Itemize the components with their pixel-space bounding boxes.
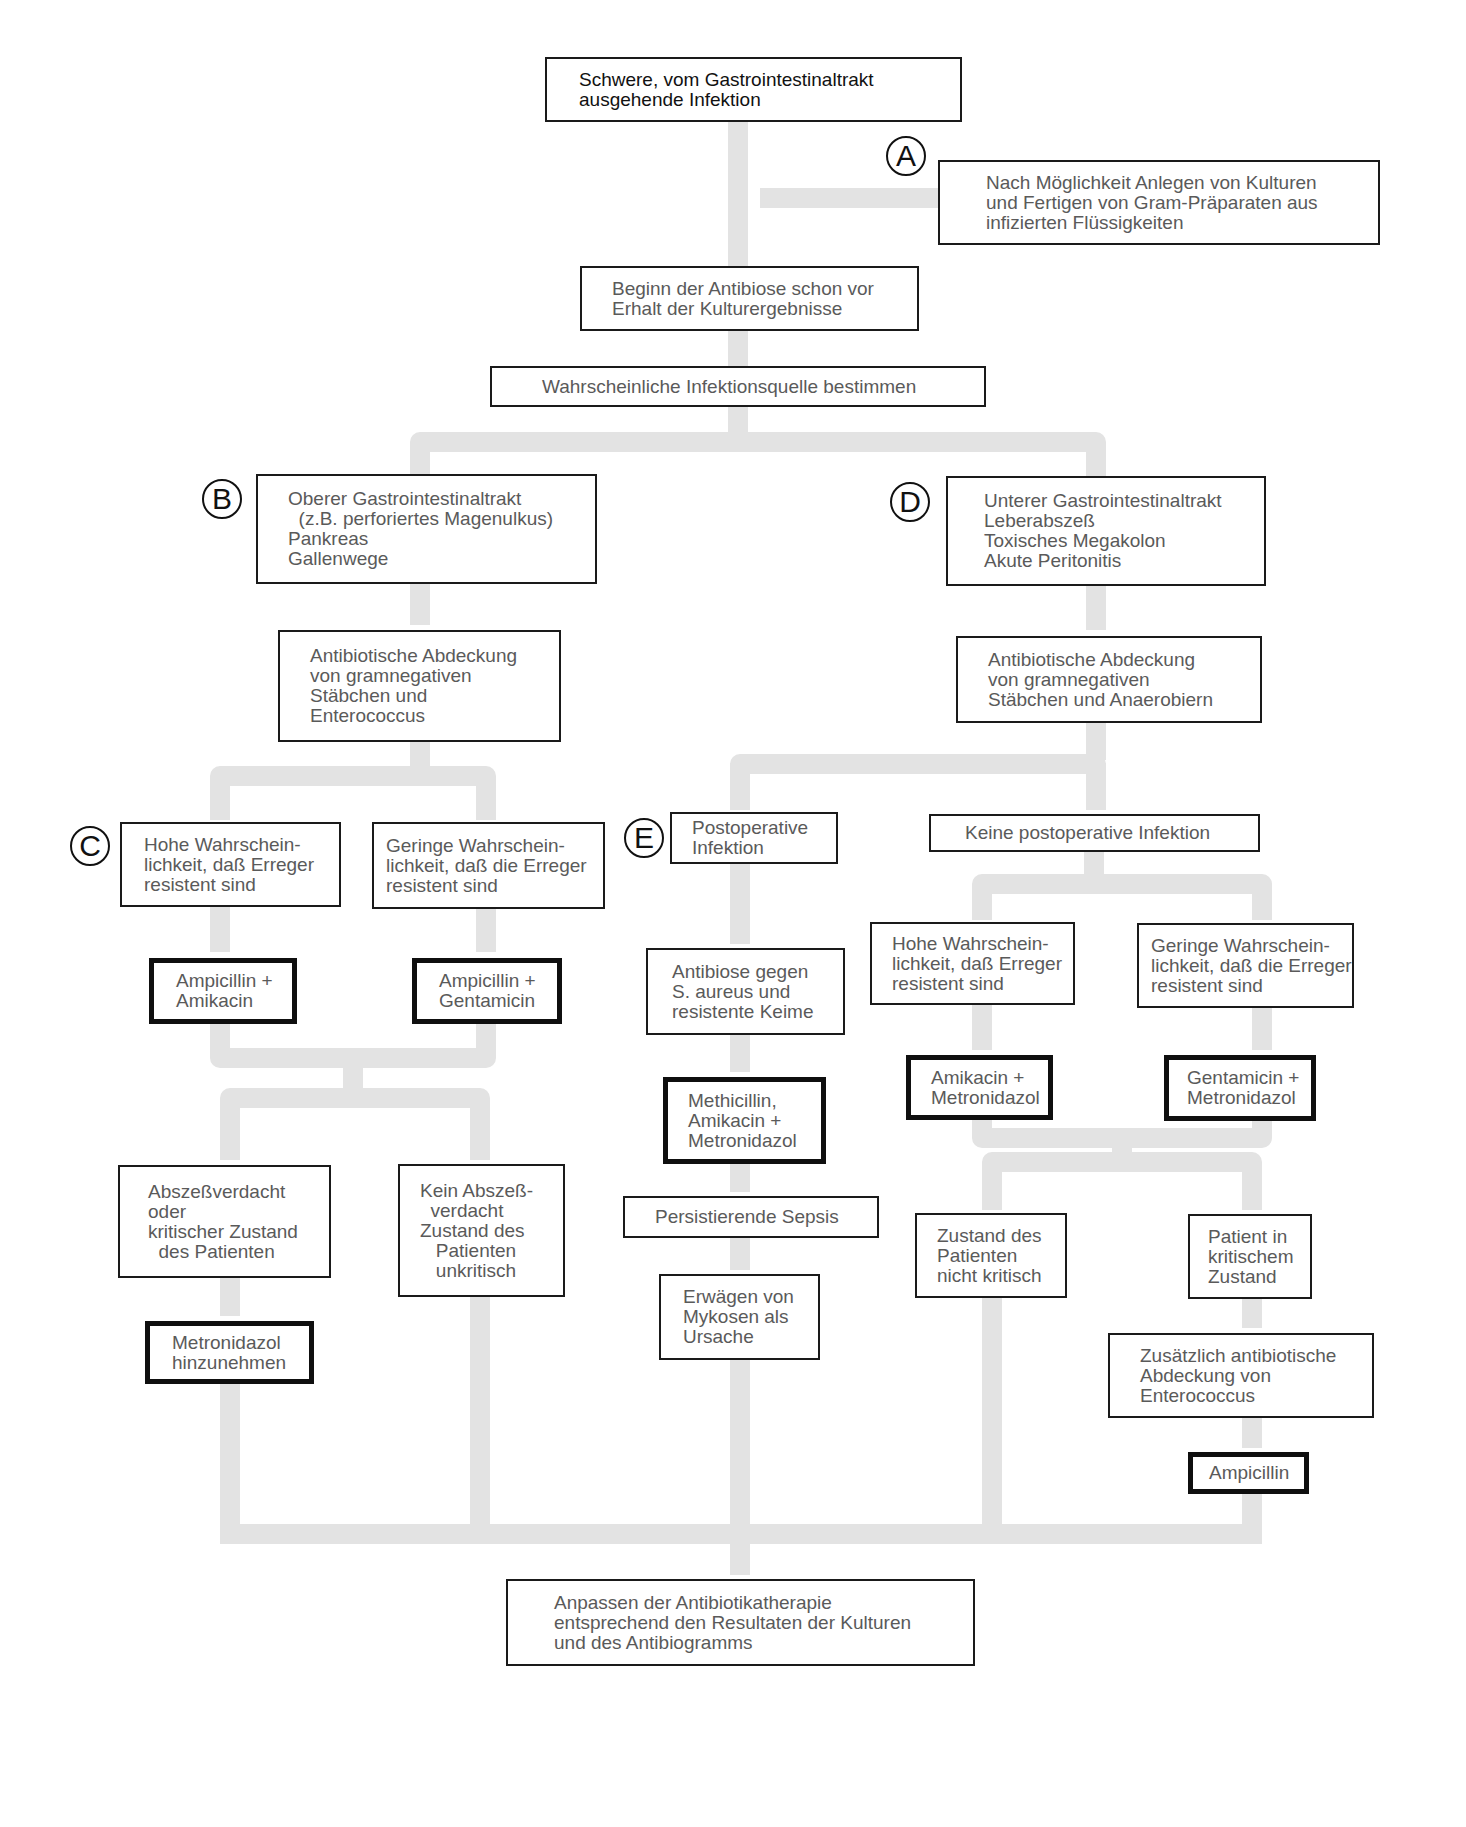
box-text-line: Abszeßverdacht: [148, 1182, 329, 1202]
box-text-line: Zustand des: [937, 1226, 1065, 1246]
step-box-cultures: Nach Möglichkeit Anlegen von Kulturenund…: [938, 160, 1380, 245]
box-text-line: Patienten: [420, 1241, 563, 1261]
step-box-c-high: Hohe Wahrschein-lichkeit, daß Erregerres…: [120, 822, 341, 907]
box-text-line: Gentamicin +: [1187, 1068, 1311, 1088]
therapy-box-drug-gent-metro: Gentamicin +Metronidazol: [1164, 1055, 1316, 1121]
box-text-line: lichkeit, daß die Erreger: [1151, 956, 1352, 976]
step-box-abscess: Abszeßverdachtoderkritischer Zustand des…: [118, 1165, 331, 1278]
box-text-line: und des Antibiogramms: [554, 1633, 973, 1653]
therapy-box-drug-amik-metro: Amikacin +Metronidazol: [906, 1055, 1053, 1120]
box-text-line: hinzunehmen: [172, 1353, 309, 1373]
step-box-mycoses: Erwägen vonMykosen alsUrsache: [659, 1274, 820, 1360]
box-text-line: Metronidazol: [688, 1131, 821, 1151]
therapy-box-drug-amp-amik: Ampicillin +Amikacin: [149, 958, 297, 1024]
step-box-anti-saureus: Antibiose gegenS. aureus undresistente K…: [646, 948, 845, 1035]
box-text-line: Mykosen als: [683, 1307, 818, 1327]
box-text-line: Metronidazol: [1187, 1088, 1311, 1108]
box-text-line: S. aureus und: [672, 982, 843, 1002]
box-text-line: von gramnegativen: [310, 666, 559, 686]
box-text-line: Stäbchen und: [310, 686, 559, 706]
box-text-line: Antibiotische Abdeckung: [988, 650, 1260, 670]
box-text-line: Beginn der Antibiose schon vor: [612, 279, 917, 299]
box-text-line: des Patienten: [148, 1242, 329, 1262]
step-box-no-abscess: Kein Abszeß- verdachtZustand des Patient…: [398, 1164, 565, 1297]
box-text-line: resistent sind: [1151, 976, 1352, 996]
box-text-line: Ampicillin +: [176, 971, 292, 991]
step-box-start: Schwere, vom Gastrointestinaltraktausgeh…: [545, 57, 962, 122]
box-text-line: Zustand des: [420, 1221, 563, 1241]
box-text-line: Methicillin,: [688, 1091, 821, 1111]
box-text-line: Hohe Wahrschein-: [892, 934, 1073, 954]
box-text-line: Metronidazol: [931, 1088, 1048, 1108]
box-text-line: resistent sind: [386, 876, 603, 896]
box-text-line: unkritisch: [420, 1261, 563, 1281]
therapy-box-drug-methi: Methicillin,Amikacin +Metronidazol: [663, 1077, 826, 1164]
box-text-line: Geringe Wahrschein-: [386, 836, 603, 856]
box-text-line: lichkeit, daß Erreger: [144, 855, 339, 875]
box-text-line: Ursache: [683, 1327, 818, 1347]
box-text-line: Schwere, vom Gastrointestinaltrakt: [579, 70, 960, 90]
box-text-line: Patienten: [937, 1246, 1065, 1266]
step-box-no-postop: Keine postoperative Infektion: [929, 814, 1260, 852]
box-text-line: von gramnegativen: [988, 670, 1260, 690]
box-text-line: lichkeit, daß Erreger: [892, 954, 1073, 974]
box-text-line: Enterococcus: [310, 706, 559, 726]
box-text-line: Unterer Gastrointestinaltrakt: [984, 491, 1264, 511]
step-box-upper-gi: Oberer Gastrointestinaltrakt (z.B. perfo…: [256, 474, 597, 584]
box-text-line: Amikacin +: [931, 1068, 1048, 1088]
therapy-box-drug-metro-add: Metronidazolhinzunehmen: [145, 1321, 314, 1384]
box-text-line: Antibiotische Abdeckung: [310, 646, 559, 666]
box-text-line: Anpassen der Antibiotikatherapie: [554, 1593, 973, 1613]
step-box-c-low: Geringe Wahrschein-lichkeit, daß die Err…: [372, 822, 605, 909]
box-text-line: Metronidazol: [172, 1333, 309, 1353]
box-text-line: Antibiose gegen: [672, 962, 843, 982]
box-text-line: verdacht: [420, 1201, 563, 1221]
step-box-d-low: Geringe Wahrschein-lichkeit, daß die Err…: [1137, 923, 1354, 1008]
box-text-line: und Fertigen von Gram-Präparaten aus: [986, 193, 1378, 213]
therapy-box-drug-ampicillin: Ampicillin: [1188, 1452, 1309, 1494]
box-text-line: Kein Abszeß-: [420, 1181, 563, 1201]
flowchart-canvas: Schwere, vom Gastrointestinaltraktausgeh…: [0, 0, 1466, 1827]
step-box-cover-anaerob: Antibiotische Abdeckungvon gramnegativen…: [956, 636, 1262, 723]
step-marker-b: B: [202, 479, 242, 519]
step-box-cover-entero: Antibiotische Abdeckungvon gramnegativen…: [278, 630, 561, 742]
box-text-line: Stäbchen und Anaerobiern: [988, 690, 1260, 710]
box-text-line: ausgehende Infektion: [579, 90, 960, 110]
box-text-line: Abdeckung von: [1140, 1366, 1372, 1386]
step-box-source: Wahrscheinliche Infektionsquelle bestimm…: [490, 366, 986, 407]
box-text-line: resistent sind: [144, 875, 339, 895]
box-text-line: kritischem: [1208, 1247, 1310, 1267]
box-text-line: Ampicillin: [1209, 1463, 1304, 1483]
box-text-line: Hohe Wahrschein-: [144, 835, 339, 855]
box-text-line: infizierten Flüssigkeiten: [986, 213, 1378, 233]
box-text-line: Persistierende Sepsis: [655, 1207, 877, 1227]
box-text-line: Keine postoperative Infektion: [965, 823, 1258, 843]
step-box-postop: PostoperativeInfektion: [670, 812, 838, 864]
box-text-line: Amikacin +: [688, 1111, 821, 1131]
box-text-line: Wahrscheinliche Infektionsquelle bestimm…: [542, 377, 984, 397]
box-text-line: Gallenwege: [288, 549, 595, 569]
box-text-line: Leberabszeß: [984, 511, 1264, 531]
box-text-line: Patient in: [1208, 1227, 1310, 1247]
box-text-line: lichkeit, daß die Erreger: [386, 856, 603, 876]
step-marker-a: A: [886, 136, 926, 176]
step-box-start-antibiosis: Beginn der Antibiose schon vorErhalt der…: [580, 266, 919, 331]
box-text-line: Geringe Wahrschein-: [1151, 936, 1352, 956]
step-box-sepsis: Persistierende Sepsis: [623, 1196, 879, 1238]
box-text-line: Enterococcus: [1140, 1386, 1372, 1406]
box-text-line: Oberer Gastrointestinaltrakt: [288, 489, 595, 509]
step-box-d-high: Hohe Wahrschein-lichkeit, daß Erregerres…: [870, 922, 1075, 1005]
box-text-line: Akute Peritonitis: [984, 551, 1264, 571]
box-text-line: Nach Möglichkeit Anlegen von Kulturen: [986, 173, 1378, 193]
therapy-box-drug-amp-gent: Ampicillin +Gentamicin: [412, 958, 562, 1024]
box-text-line: Ampicillin +: [439, 971, 557, 991]
box-text-line: Infektion: [692, 838, 836, 858]
step-box-not-critical: Zustand desPatientennicht kritisch: [915, 1213, 1067, 1298]
box-text-line: Erwägen von: [683, 1287, 818, 1307]
step-box-add-entero: Zusätzlich antibiotischeAbdeckung vonEnt…: [1108, 1333, 1374, 1418]
box-text-line: Postoperative: [692, 818, 836, 838]
box-text-line: Pankreas: [288, 529, 595, 549]
box-text-line: (z.B. perforiertes Magenulkus): [288, 509, 595, 529]
box-text-line: nicht kritisch: [937, 1266, 1065, 1286]
box-text-line: resistente Keime: [672, 1002, 843, 1022]
